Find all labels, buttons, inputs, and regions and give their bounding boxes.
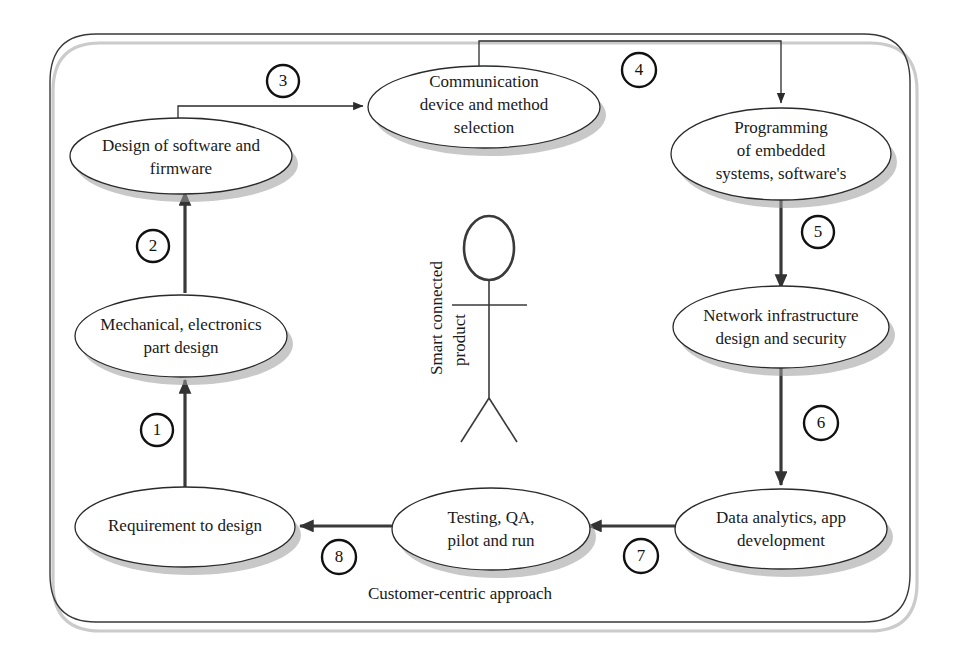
node-label: systems, software's: [716, 164, 847, 183]
actor-leg-right: [489, 398, 517, 442]
node-label: Data analytics, app: [716, 508, 846, 527]
actor-label-line2: product: [450, 314, 469, 366]
node-network-infrastructure-security[interactable]: Network infrastructure design and securi…: [673, 286, 895, 376]
actor-label-line1: Smart connected: [427, 261, 446, 375]
step-badge-7[interactable]: 7: [624, 539, 658, 573]
step-badge-1[interactable]: 1: [141, 414, 173, 446]
node-label: Programming: [734, 118, 828, 137]
step-badge-2[interactable]: 2: [137, 230, 169, 262]
node-programming-embedded-systems[interactable]: Programming of embedded systems, softwar…: [671, 108, 897, 208]
diagram-caption: Customer-centric approach: [368, 584, 553, 603]
node-requirement-to-design[interactable]: Requirement to design: [75, 487, 301, 575]
node-testing-qa-pilot-run[interactable]: Testing, QA, pilot and run: [392, 488, 596, 578]
node-label: firmware: [150, 159, 212, 178]
node-label: device and method: [420, 95, 549, 114]
step-number: 4: [635, 60, 644, 79]
node-label: Design of software and: [102, 136, 261, 155]
node-label: Requirement to design: [108, 516, 262, 535]
step-badge-8[interactable]: 8: [322, 540, 356, 574]
smart-connected-product-actor: Smart connected product: [427, 216, 527, 442]
node-label: part design: [143, 338, 219, 357]
step-badge-3[interactable]: 3: [267, 65, 299, 97]
node-mechanical-electronics-part-design[interactable]: Mechanical, electronics part design: [75, 295, 293, 385]
step-number: 7: [637, 546, 646, 565]
process-cycle-diagram: Design of software and firmware Communic…: [0, 0, 955, 650]
node-label: selection: [454, 118, 515, 137]
node-label: Testing, QA,: [447, 508, 534, 527]
node-label: pilot and run: [448, 531, 535, 550]
step-number: 8: [335, 547, 344, 566]
step-number: 6: [817, 413, 826, 432]
node-label: development: [737, 531, 825, 550]
node-label: Mechanical, electronics: [100, 315, 261, 334]
step-number: 1: [153, 420, 162, 439]
node-label: design and security: [715, 329, 847, 348]
actor-head-icon: [464, 216, 514, 280]
node-design-software-firmware[interactable]: Design of software and firmware: [70, 118, 298, 202]
step-badge-5[interactable]: 5: [802, 216, 834, 248]
step-badge-4[interactable]: 4: [622, 53, 656, 87]
node-data-analytics-app-development[interactable]: Data analytics, app development: [675, 489, 893, 577]
step-number: 5: [814, 222, 823, 241]
node-label: of embedded: [737, 141, 826, 160]
node-label: Network infrastructure: [703, 306, 858, 325]
diagram-canvas: Design of software and firmware Communic…: [0, 0, 955, 650]
node-label: Communication: [429, 72, 539, 91]
node-communication-device-method[interactable]: Communication device and method selectio…: [368, 66, 606, 156]
step-number: 3: [279, 71, 288, 90]
step-badge-6[interactable]: 6: [804, 406, 838, 440]
actor-leg-left: [461, 398, 489, 442]
step-number: 2: [149, 236, 158, 255]
